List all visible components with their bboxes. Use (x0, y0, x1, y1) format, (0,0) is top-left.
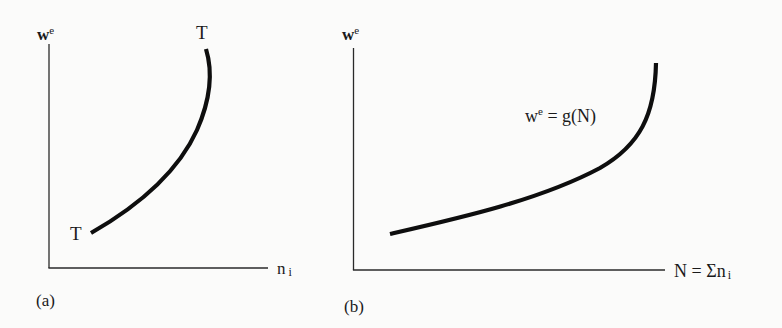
panel-a-curve-label-top: T (196, 22, 208, 43)
panel-a-y-axis-label: we (37, 24, 54, 44)
panel-a-x-axis-label: ni (277, 259, 293, 279)
panel-a: we ni T T (a) (36, 22, 293, 310)
panel-b-curve-equation: we = g(N) (525, 105, 596, 127)
panel-b-caption: (b) (344, 297, 364, 316)
panel-a-caption: (a) (36, 291, 55, 310)
figure: we ni T T (a) we N = Σni we = g(N) (b) (0, 0, 782, 328)
panel-a-curve-label-bottom: T (70, 223, 82, 244)
panel-b-y-axis-label: we (342, 24, 359, 44)
panel-a-curve-tt (91, 49, 210, 233)
panel-b-x-axis-label: N = Σni (674, 261, 732, 282)
panel-b: we N = Σni we = g(N) (b) (342, 24, 732, 316)
panel-b-curve-g (390, 63, 656, 234)
